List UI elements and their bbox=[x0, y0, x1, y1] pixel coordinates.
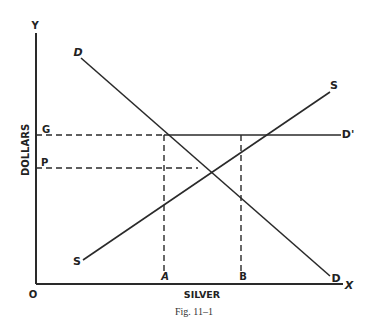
p-price-label: P bbox=[41, 157, 48, 168]
g-price-label: G bbox=[42, 124, 50, 135]
demand-end-label: D bbox=[331, 272, 340, 285]
y-axis-end-label: Y bbox=[30, 20, 39, 31]
govt-demand-label: D' bbox=[342, 128, 355, 141]
x-axis-label: SILVER bbox=[184, 289, 221, 300]
supply-end-label: S bbox=[330, 79, 338, 92]
x-axis-end-label: X bbox=[344, 279, 354, 292]
figure-caption: Fig. 11–1 bbox=[175, 306, 213, 317]
origin-label: O bbox=[29, 289, 38, 300]
a-quantity-label: A bbox=[160, 271, 169, 282]
supply-start-label: S bbox=[73, 255, 81, 268]
demand-curve bbox=[81, 58, 330, 276]
demand-start-label: D bbox=[73, 46, 82, 59]
y-axis-label: DOLLARS bbox=[20, 124, 31, 176]
supply-curve bbox=[83, 92, 330, 260]
supply-demand-diagram: Y O X D D S S D' G P A B DOLLARS SILVER … bbox=[0, 0, 373, 330]
b-quantity-label: B bbox=[239, 271, 247, 282]
